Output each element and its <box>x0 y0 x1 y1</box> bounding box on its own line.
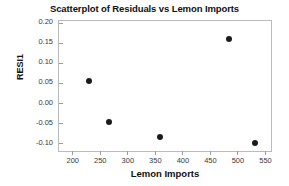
x-tick-mark <box>127 151 128 155</box>
x-tick-label: 250 <box>86 156 114 165</box>
data-point <box>226 36 232 42</box>
x-tick-label: 300 <box>114 156 142 165</box>
scatterplot-figure: Scatterplot of Residuals vs Lemon Import… <box>0 0 289 186</box>
y-tick-label: 0.10 <box>38 57 53 66</box>
x-tick-mark <box>100 151 101 155</box>
data-point <box>106 119 112 125</box>
x-tick-mark <box>210 151 211 155</box>
y-tick-label: 0.00 <box>38 98 53 107</box>
data-point <box>157 134 163 140</box>
data-point <box>252 140 258 146</box>
x-tick-label: 200 <box>59 156 87 165</box>
x-tick-mark <box>72 151 73 155</box>
y-tick-mark <box>59 123 63 124</box>
y-tick-mark <box>59 83 63 84</box>
x-tick-mark <box>155 151 156 155</box>
y-tick-mark <box>59 103 63 104</box>
y-tick-label: -0.05 <box>36 118 53 127</box>
x-tick-label: 400 <box>169 156 197 165</box>
x-tick-mark <box>237 151 238 155</box>
y-tick-label: 0.20 <box>38 17 53 26</box>
plot-area: 0.200.150.100.050.00-0.05-0.10 200250300… <box>58 20 272 152</box>
y-tick-mark <box>59 143 63 144</box>
x-tick-mark <box>265 151 266 155</box>
x-tick-label: 450 <box>196 156 224 165</box>
y-axis-label: RESI1 <box>15 37 25 97</box>
y-tick-label: -0.10 <box>36 138 53 147</box>
data-point <box>86 78 92 84</box>
x-tick-label: 350 <box>141 156 169 165</box>
y-tick-mark <box>59 63 63 64</box>
x-tick-label: 500 <box>224 156 252 165</box>
y-tick-label: 0.15 <box>38 37 53 46</box>
y-tick-label: 0.05 <box>38 77 53 86</box>
x-tick-label: 550 <box>251 156 279 165</box>
x-tick-mark <box>182 151 183 155</box>
y-tick-mark <box>59 43 63 44</box>
y-tick-mark <box>59 23 63 24</box>
chart-title: Scatterplot of Residuals vs Lemon Import… <box>0 3 289 14</box>
x-axis-label: Lemon Imports <box>58 168 272 179</box>
